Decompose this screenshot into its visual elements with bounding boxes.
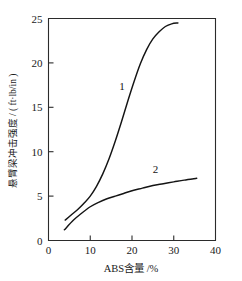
y-axis-tick-labels: 0510152025: [32, 13, 44, 247]
curve-labels: 12: [119, 80, 158, 175]
y-tick-label: 0: [37, 235, 43, 247]
y-tick-label: 5: [37, 190, 43, 202]
x-axis-title: ABS含量 /%: [104, 262, 159, 274]
x-tick-label: 10: [85, 244, 97, 256]
x-axis-ticks: [90, 236, 174, 241]
data-curves: [64, 23, 196, 230]
x-tick-label: 0: [46, 244, 52, 256]
chart-figure: 12 010203040 0510152025 ABS含量 /% 悬臂梁冲击强度…: [0, 0, 242, 281]
y-tick-label: 10: [32, 146, 44, 158]
impact-strength-vs-abs-content-chart: 12 010203040 0510152025 ABS含量 /% 悬臂梁冲击强度…: [0, 0, 242, 281]
y-axis-title: 悬臂梁冲击强度 / ( ft·lb/in ): [7, 74, 19, 189]
y-tick-label: 15: [32, 101, 44, 113]
x-axis-tick-labels: 010203040: [46, 244, 222, 256]
x-tick-label: 40: [210, 244, 222, 256]
y-axis-ticks: [49, 63, 54, 196]
curve-label-2: 2: [153, 163, 159, 175]
y-tick-label: 20: [32, 57, 44, 69]
plot-frame: [49, 19, 216, 241]
x-tick-label: 30: [168, 244, 180, 256]
curve-label-1: 1: [119, 80, 125, 92]
curve-2: [64, 178, 196, 230]
y-tick-label: 25: [32, 13, 44, 25]
x-tick-label: 20: [127, 244, 139, 256]
curve-1: [65, 23, 178, 220]
